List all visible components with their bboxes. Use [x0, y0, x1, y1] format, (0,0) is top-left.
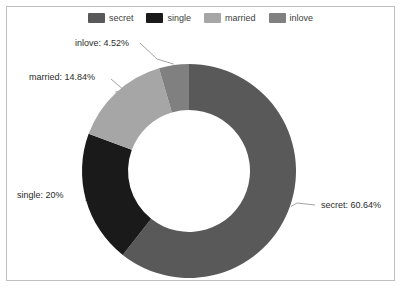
- leader-line-secret: [291, 203, 315, 206]
- slice-label-single: single: 20%: [17, 190, 64, 201]
- chart-card: secret single married inlove inlove: 4.5…: [6, 6, 395, 281]
- donut-slice-married[interactable]: [89, 68, 172, 150]
- slice-label-secret: secret: 60.64%: [321, 200, 381, 211]
- donut-slices: [82, 64, 296, 278]
- donut-chart-plot: [7, 7, 396, 282]
- leader-line-inlove: [140, 43, 174, 64]
- slice-label-inlove: inlove: 4.52%: [75, 38, 129, 49]
- slice-label-married: married: 14.84%: [29, 72, 95, 83]
